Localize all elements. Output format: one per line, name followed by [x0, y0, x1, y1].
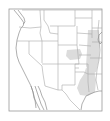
- us-map: [0, 0, 110, 121]
- shade-kansas-missouri: [66, 49, 82, 60]
